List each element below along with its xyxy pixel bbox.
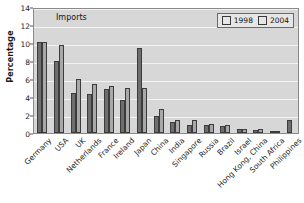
bar-2004: [242, 129, 247, 134]
bar-1998: [287, 120, 292, 133]
bar-2004: [59, 45, 64, 133]
bar-2004: [125, 88, 130, 133]
bar-2004: [109, 86, 114, 133]
bar-2004: [192, 120, 197, 133]
bar-2004: [142, 88, 147, 133]
bar-group: [34, 9, 51, 133]
y-tick-label: 10: [20, 40, 30, 49]
bar-2004: [42, 42, 47, 133]
bar-group: [67, 9, 84, 133]
bar-2004: [175, 120, 180, 134]
bar-group: [134, 9, 151, 133]
bar-group: [184, 9, 201, 133]
bar-2004: [209, 124, 214, 133]
bar-group: [117, 9, 134, 133]
plot-area: Imports 1998 2004: [33, 8, 299, 134]
legend: 1998 2004: [217, 13, 294, 28]
bar-2004: [275, 131, 280, 133]
legend-item-1998: 1998: [222, 16, 253, 25]
legend-label-1998: 1998: [234, 16, 253, 25]
bar-group: [200, 9, 217, 133]
x-tick-label: China: [149, 136, 171, 158]
chart-title: Imports: [56, 13, 87, 22]
x-tick-label: Germany: [23, 136, 54, 167]
x-axis-labels: GermanyUSAUKNetherlandsFranceIrelandJapa…: [33, 136, 299, 203]
legend-item-2004: 2004: [258, 16, 289, 25]
legend-swatch-1998: [222, 16, 231, 25]
bar-group: [101, 9, 118, 133]
bar-2004: [258, 129, 263, 134]
bar-2004: [225, 125, 230, 133]
bar-group: [167, 9, 184, 133]
x-tick-label: Japan: [132, 136, 153, 157]
y-tick-label: 12: [20, 22, 30, 31]
bar-2004: [92, 84, 97, 133]
x-tick-label: Brazil: [215, 136, 236, 157]
y-axis-ticks: 02468101214: [10, 8, 30, 134]
y-tick-label: 14: [20, 4, 30, 13]
bar-2004: [76, 79, 81, 133]
bar-group: [84, 9, 101, 133]
bar-group: [51, 9, 68, 133]
bar-group: [150, 9, 167, 133]
bar-2004: [159, 109, 164, 133]
x-tick-label: USA: [53, 136, 70, 153]
legend-swatch-2004: [258, 16, 267, 25]
legend-label-2004: 2004: [270, 16, 289, 25]
imports-bar-chart: Percentage 02468101214 Imports 1998 2004…: [0, 0, 304, 203]
